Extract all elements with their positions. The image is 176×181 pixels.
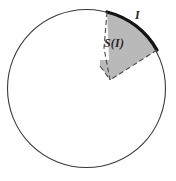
- sector-label: S(I): [104, 37, 124, 49]
- geometry-figure: S(I) I: [0, 0, 176, 181]
- arc-label: I: [135, 9, 140, 21]
- circle-sector-drawing: [0, 0, 176, 181]
